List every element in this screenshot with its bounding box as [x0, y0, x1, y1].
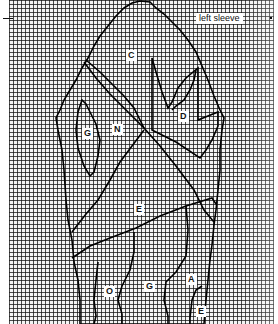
region-o-right-edge [118, 232, 134, 324]
region-c-left-edge [86, 60, 144, 128]
knitting-chart: left sleeve C D G N E O G A E [0, 0, 278, 324]
region-o-outline [94, 262, 98, 324]
region-e-left-diagonal [72, 130, 144, 232]
region-e-lower-outline [190, 286, 202, 324]
sleeve-left-side [56, 110, 80, 324]
sleeve-outline [0, 0, 278, 324]
region-label-n: N [112, 124, 123, 135]
region-label-e-middle: E [134, 204, 144, 215]
region-label-c: C [126, 50, 137, 61]
region-label-g-upper: G [82, 128, 93, 139]
region-label-e-lower: E [196, 306, 206, 317]
region-label-a: A [186, 274, 197, 285]
region-n-diagonal [84, 62, 214, 222]
region-label-g-lower: G [144, 281, 155, 292]
region-c-right-edge [172, 70, 196, 110]
region-label-o: O [104, 286, 115, 297]
region-g-lower-edge [164, 206, 188, 324]
sleeve-right-side [204, 110, 224, 324]
region-d-outline [152, 58, 218, 158]
chart-title: left sleeve [196, 13, 243, 24]
region-label-d: D [178, 111, 189, 122]
